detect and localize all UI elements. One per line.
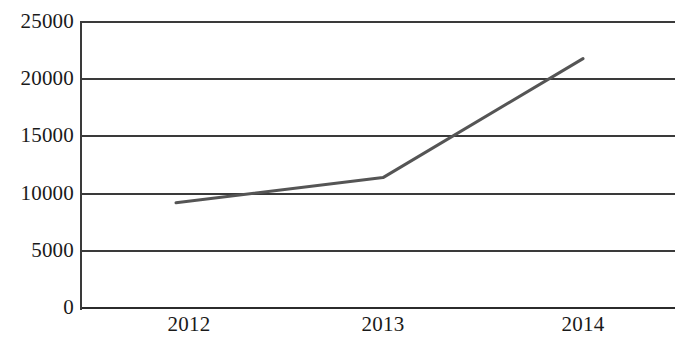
x-axis-tick-labels: 201220132014 <box>0 0 681 341</box>
x-tick-label-2013: 2013 <box>323 312 443 336</box>
x-tick-label-2014: 2014 <box>523 312 643 336</box>
line-chart: 0500010000150002000025000 201220132014 <box>0 0 681 341</box>
x-tick-label-2012: 2012 <box>129 312 249 336</box>
